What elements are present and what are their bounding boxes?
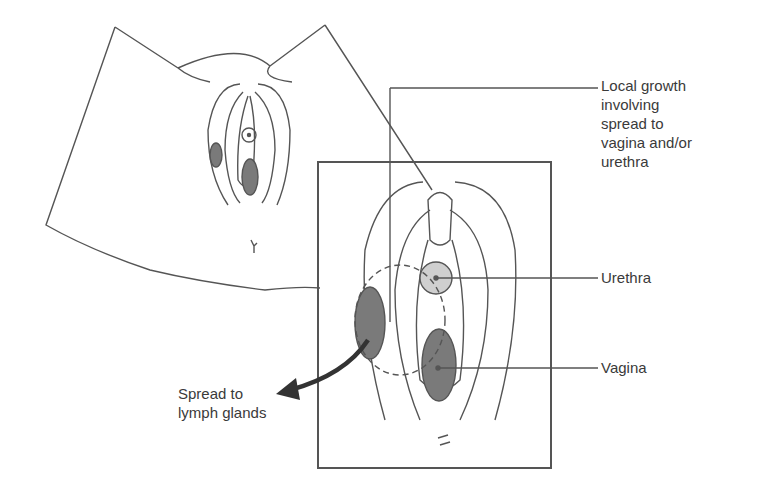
inset-clitoris [428,193,452,246]
overview-body-outline [46,25,432,290]
spread-arrow-shaft [290,340,368,390]
label-line: vagina and/or [601,133,692,152]
inset-vagina-tumor [422,329,456,401]
label-lymph-spread: Spread to lymph glands [178,384,266,422]
anatomy-illustration [0,0,760,500]
overview-lymph-tumor [210,143,222,167]
label-vagina: Vagina [601,358,647,377]
inset-inner-labia-left [395,210,430,420]
label-line: involving [601,95,692,114]
label-line: lymph glands [178,403,266,422]
inset-anus-mark [438,435,450,445]
overview-abdomen-curve [178,53,292,82]
label-local-growth: Local growth involving spread to vagina … [601,76,692,171]
label-line: urethra [601,152,692,171]
inset-frame[interactable] [318,162,551,468]
overview-anus-mark [251,240,257,253]
label-urethra: Urethra [601,268,651,287]
label-line: Local growth [601,76,692,95]
spread-arrow-head [276,378,300,400]
inset-outer-labia-right [455,182,516,420]
label-line: spread to [601,114,692,133]
inset-inner-labia-right [450,210,488,420]
diagram-canvas: Local growth involving spread to vagina … [0,0,760,500]
label-line: Spread to [178,384,266,403]
overview-vagina-tumor [242,159,258,195]
